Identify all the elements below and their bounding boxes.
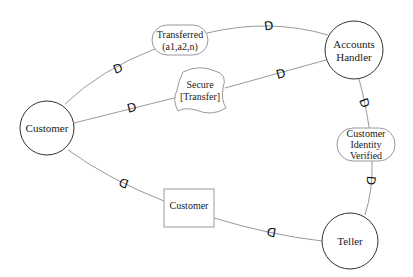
node-customer-doc[interactable]: Customer (164, 189, 214, 227)
node-secure-transfer-label-1: Secure (186, 79, 214, 90)
node-accounts-handler-label-2: Handler (336, 51, 372, 63)
gate-icon: D (126, 100, 138, 116)
gate-icon: D (266, 224, 278, 239)
node-teller-label: Teller (337, 235, 363, 247)
node-transferred-label-1: Transferred (157, 29, 203, 40)
node-customer-doc-label: Customer (170, 200, 210, 211)
gate-icon: D (117, 175, 130, 191)
process-diagram: D D D D D D D D Customer Accounts Handle… (0, 0, 413, 277)
node-teller[interactable]: Teller (322, 213, 378, 269)
edge-customer-customer-doc (68, 150, 164, 201)
edge-customer-secure-transfer (74, 97, 178, 123)
gate-icon: D (275, 66, 288, 82)
gate-icon: D (356, 96, 372, 109)
edge-civ-teller (365, 160, 372, 215)
node-accounts-handler-label-1: Accounts (333, 38, 375, 50)
node-secure-transfer[interactable]: Secure [Transfer] (175, 68, 226, 113)
node-customer[interactable]: Customer (20, 101, 74, 155)
node-civ-label-1: Customer (347, 128, 387, 139)
node-transferred[interactable]: Transferred (a1,a2,n) (152, 25, 208, 55)
node-civ-label-3: Verified (350, 150, 382, 161)
node-customer-identity-verified[interactable]: Customer Identity Verified (337, 128, 395, 161)
node-transferred-label-2: (a1,a2,n) (162, 41, 198, 53)
node-civ-label-2: Identity (350, 139, 381, 150)
node-secure-transfer-label-2: [Transfer] (180, 91, 220, 102)
node-accounts-handler[interactable]: Accounts Handler (325, 21, 383, 79)
gate-icon: D (263, 18, 274, 33)
gate-icon: D (364, 175, 379, 185)
edge-customer-transferred (65, 48, 157, 104)
node-customer-label: Customer (26, 122, 69, 134)
